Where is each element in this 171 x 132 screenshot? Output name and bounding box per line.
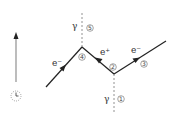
index-4: 4 xyxy=(79,53,86,60)
clock-icon xyxy=(11,91,21,101)
gamma-top-label: γ xyxy=(72,21,77,31)
svg-text:4: 4 xyxy=(80,53,84,60)
electron-out-label: e⁻ xyxy=(131,45,141,55)
electron-in-label: e⁻ xyxy=(52,58,62,68)
positron-label: e⁺ xyxy=(100,47,110,57)
svg-text:5: 5 xyxy=(88,24,92,31)
index-5: 5 xyxy=(87,24,94,31)
time-arrow xyxy=(14,32,19,82)
svg-text:2: 2 xyxy=(111,63,115,70)
feynman-diagram: γ γ e⁻ e⁺ e⁻ 5 4 2 3 1 xyxy=(0,0,171,132)
index-1: 1 xyxy=(118,95,125,102)
index-2: 2 xyxy=(110,63,117,70)
gamma-bottom-label: γ xyxy=(104,94,109,104)
svg-text:3: 3 xyxy=(142,60,146,67)
index-3: 3 xyxy=(141,60,148,67)
svg-text:1: 1 xyxy=(119,95,123,102)
